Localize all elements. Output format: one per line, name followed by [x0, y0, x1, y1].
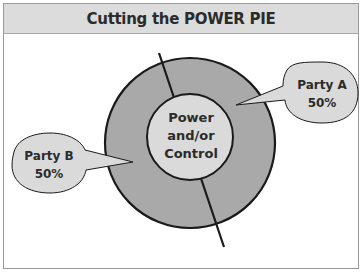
center-label-line3: Control: [164, 146, 218, 161]
center-label-line2: and/or: [167, 128, 215, 143]
center-label-line1: Power: [168, 110, 214, 125]
power-pie-diagram: Power and/or Control Party A 50% Party B…: [0, 0, 364, 275]
party-b-name: Party B: [24, 149, 73, 163]
party-a-name: Party A: [297, 78, 347, 92]
party-b-share: 50%: [35, 167, 64, 181]
party-a-share: 50%: [308, 96, 337, 110]
